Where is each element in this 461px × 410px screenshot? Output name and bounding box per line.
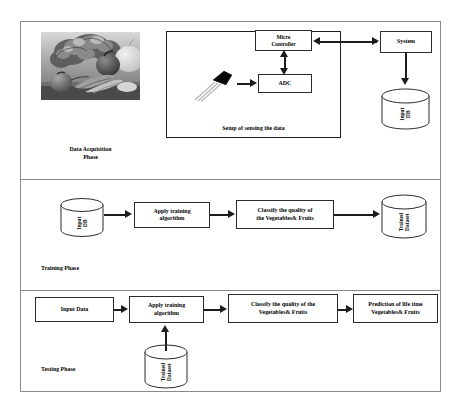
node-training-apply-algorithm[interactable]: Apply training algorithm (134, 202, 210, 228)
arrow-training-classify-to-dataset-line (334, 214, 375, 216)
node-adc-label: ADC (279, 80, 292, 87)
node-training-trained-dataset-label-wrap: Trained Dataset (381, 199, 427, 245)
arrow-testing-classify-to-prediction-head (346, 305, 353, 313)
node-input-db[interactable]: Input DB (381, 88, 430, 130)
phase-divider-1 (20, 179, 441, 180)
sensor-icon (193, 66, 235, 102)
node-training-trained-dataset[interactable]: Trained Dataset (381, 194, 427, 240)
arrow-training-algorithm-to-classify-line (210, 214, 229, 216)
arrow-training-algorithm-to-classify-head (228, 210, 235, 218)
arrow-training-inputdb-to-algorithm-head (125, 210, 132, 218)
arrow-testing-inputdata-to-algorithm-head (121, 305, 128, 313)
node-input-db-label-wrap: Input DB (381, 93, 430, 135)
node-training-trained-dataset-label: Trained Dataset (398, 213, 410, 231)
node-training-apply-algorithm-label: Apply training algorithm (153, 208, 190, 222)
arrow-testing-dataset-to-algorithm-head (161, 325, 169, 332)
node-training-input-db-label: Input DB (76, 217, 88, 230)
arrow-adc-to-microcontroller-head (280, 50, 288, 57)
arrow-testing-algorithm-to-classify-line (204, 309, 221, 311)
arrow-system-to-microcontroller-head (313, 37, 320, 45)
node-testing-classify[interactable]: Classify the quality of the Vegetables& … (228, 294, 338, 323)
arrow-system-to-inputdb-head (401, 78, 409, 85)
node-training-classify-label: Classify the quality of the Vegetables& … (256, 207, 314, 221)
arrow-testing-dataset-to-algorithm-line (165, 330, 167, 351)
node-testing-input-data-label: Input Data (61, 306, 89, 313)
node-testing-prediction[interactable]: Prediction of life time Vegetables& Frui… (353, 294, 438, 323)
sensing-setup-caption: Setup of sensing the data (167, 125, 340, 131)
node-micro-controller[interactable]: Micro Controller (255, 30, 312, 51)
arrow-microcontroller-to-adc-head (280, 68, 288, 75)
node-testing-trained-dataset-label: Trained Dataset (160, 363, 172, 381)
node-adc[interactable]: ADC (258, 74, 312, 93)
arrow-testing-algorithm-to-classify-head (220, 305, 227, 313)
vegetables-photo (41, 32, 140, 100)
arrow-training-classify-to-dataset-head (373, 210, 380, 218)
block-diagram: Setup of sensing the data Micro Controll… (0, 0, 461, 410)
phase-label-data-acquisition: Data Acquisition Phase (41, 146, 140, 161)
arrow-sensor-to-adc-head (250, 79, 257, 87)
node-testing-apply-algorithm-label: Apply training algorithm (148, 302, 185, 316)
node-training-input-db-label-wrap: Input DB (60, 203, 104, 243)
arrow-microcontroller-to-system-head (372, 37, 379, 45)
phase-divider-2 (20, 290, 441, 291)
node-training-input-db[interactable]: Input DB (60, 198, 104, 238)
phase-label-testing: Testing Phase (41, 366, 151, 374)
node-testing-apply-algorithm[interactable]: Apply training algorithm (129, 296, 204, 323)
node-testing-classify-label: Classify the quality of the Vegetables& … (251, 301, 315, 315)
node-training-classify[interactable]: Classify the quality of the Vegetables& … (236, 200, 334, 229)
node-micro-controller-label: Micro Controller (271, 34, 295, 47)
node-system-label: System (397, 38, 415, 45)
arrow-microcontroller-system-line (319, 41, 377, 43)
arrow-sensor-to-adc-line (237, 83, 251, 85)
arrow-training-inputdb-to-algorithm-line (104, 214, 126, 216)
arrow-system-to-inputdb-line (405, 53, 407, 80)
node-input-db-label: Input DB (399, 108, 411, 121)
phase-label-training: Training Phase (41, 265, 151, 273)
node-testing-prediction-label: Prediction of life time Vegetables& Frui… (368, 301, 422, 315)
node-system[interactable]: System (380, 31, 432, 53)
node-testing-input-data[interactable]: Input Data (35, 297, 114, 322)
